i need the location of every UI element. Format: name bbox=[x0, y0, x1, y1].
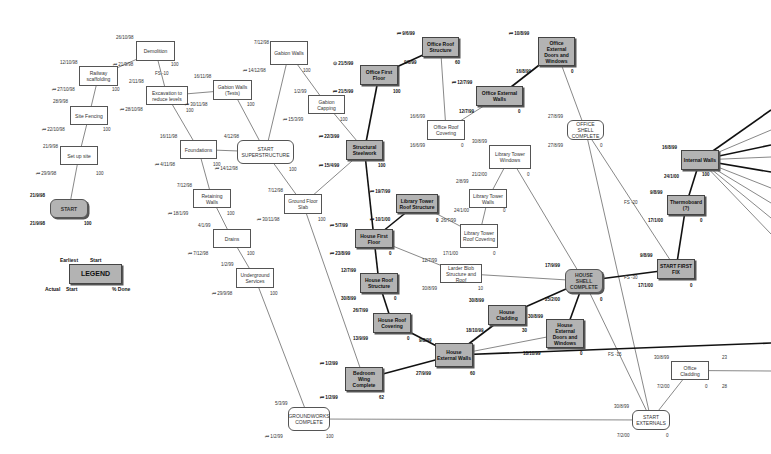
task-node-internal-walls[interactable]: Internal Walls bbox=[681, 150, 719, 170]
task-node-office-roof[interactable]: Office Roof Structure bbox=[422, 37, 459, 57]
task-node-setup[interactable]: Set up site bbox=[60, 146, 98, 165]
legend-actual-label: Actual bbox=[45, 287, 60, 292]
date-label: ⏮ 15/3/99 bbox=[283, 117, 303, 122]
date-label: 5/3/99 bbox=[275, 401, 288, 406]
date-label: 27/8/99 bbox=[548, 143, 563, 148]
task-node-underground[interactable]: Underground Services bbox=[236, 268, 274, 288]
legend-earliest-label: Earliest bbox=[60, 258, 78, 263]
task-node-house-ext-walls[interactable]: House External Walls bbox=[435, 343, 473, 367]
task-node-start-ext[interactable]: START EXTERNALS bbox=[632, 410, 670, 430]
date-label: 0 bbox=[600, 143, 603, 148]
task-node-house-shell[interactable]: HOUSE SHELL COMPLETE bbox=[565, 269, 603, 293]
date-label: 100 bbox=[378, 163, 386, 168]
date-label: 12/7/99 bbox=[459, 109, 474, 114]
task-node-lib-walls[interactable]: Library Tower Walls bbox=[469, 189, 507, 208]
date-label: ⏮ 23/8/99 bbox=[330, 251, 350, 256]
task-node-thermoboard[interactable]: Thermoboard (?) bbox=[667, 195, 705, 215]
task-node-house-ff[interactable]: House First Floor bbox=[355, 229, 393, 248]
date-label: 0 bbox=[503, 208, 506, 213]
date-label: 100 bbox=[96, 171, 104, 176]
task-node-house-roof-struct[interactable]: House Roof Structure bbox=[360, 273, 398, 293]
task-node-struct-steel[interactable]: Structural Steelwork bbox=[346, 140, 383, 160]
date-label: 100 bbox=[103, 127, 111, 132]
date-label: 2/8/99 bbox=[456, 179, 469, 184]
date-label: ⏮ 22/10/98 bbox=[42, 127, 65, 132]
date-label: 21/9/98 bbox=[30, 193, 45, 198]
task-node-groundworks[interactable]: GROUNDWORKS COMPLETE bbox=[288, 407, 330, 431]
dependency-line bbox=[365, 150, 375, 239]
task-node-lib-roof-struct[interactable]: Library Tower Roof Structure bbox=[396, 194, 438, 213]
date-label: 7/12/98 bbox=[177, 183, 192, 188]
date-label: 27/8/99 bbox=[548, 114, 563, 119]
task-node-lib-roof-cov[interactable]: Library Tower Roof Covering bbox=[460, 224, 498, 248]
date-label: 12/10/98 bbox=[60, 60, 78, 65]
date-label: ⏮ 12/7/99 bbox=[452, 80, 472, 85]
legend-box: LEGEND bbox=[69, 264, 122, 284]
date-label: ⏮ 5/7/99 bbox=[330, 223, 348, 228]
task-node-railway[interactable]: Railway scaffolding bbox=[79, 66, 118, 86]
task-node-house-ext-doors[interactable]: House External Doors and Windows bbox=[546, 319, 584, 348]
task-node-office-cladding[interactable]: Office Cladding bbox=[671, 361, 709, 380]
date-label: 26/10/98 bbox=[116, 35, 134, 40]
task-node-demolition[interactable]: Demolition bbox=[136, 41, 175, 61]
task-node-excavation[interactable]: Excavation to reduce levels bbox=[146, 86, 188, 105]
task-node-foundations[interactable]: Foundations bbox=[180, 140, 217, 159]
date-label: ⏮ 10/8/99 bbox=[509, 31, 529, 36]
date-label: 60 bbox=[455, 60, 460, 65]
date-label: 100 bbox=[340, 117, 348, 122]
task-node-bedroom[interactable]: Bedroom Wing Complete bbox=[345, 367, 383, 391]
task-node-office-ext-doors[interactable]: Office External Doors and Windows bbox=[538, 37, 575, 66]
task-node-larder[interactable]: Larder Blob Structure and Roof bbox=[440, 264, 482, 283]
date-label: FS -10 bbox=[155, 71, 169, 76]
date-label: 7/12/98 bbox=[268, 188, 283, 193]
date-label: 0 bbox=[690, 283, 693, 288]
task-node-gabion[interactable]: Gabion Walls bbox=[270, 41, 308, 65]
date-label: 100 bbox=[112, 87, 120, 92]
task-node-office-ff[interactable]: Office First Floor bbox=[360, 65, 398, 85]
date-label: ⏮ 1/2/99 bbox=[320, 361, 338, 366]
date-label: 0 bbox=[666, 433, 669, 438]
date-label: 9/8/99 bbox=[640, 253, 653, 258]
date-label: ⏮ 29/9/98 bbox=[212, 291, 232, 296]
date-label: 4/12/98 bbox=[224, 134, 239, 139]
task-node-gf-slab[interactable]: Ground Floor Slab bbox=[284, 194, 322, 214]
date-label: 100 bbox=[289, 167, 297, 172]
date-label: 28 bbox=[722, 384, 727, 389]
task-node-office-roof-cov[interactable]: Office Roof Covering bbox=[427, 120, 465, 140]
task-node-lib-windows[interactable]: Library Tower Windows bbox=[489, 145, 531, 169]
date-label: 30/8/99 bbox=[472, 139, 487, 144]
date-label: 100 bbox=[247, 251, 255, 256]
date-label: ⏮ 30/11/98 bbox=[257, 217, 279, 222]
task-node-office-ext-walls[interactable]: Office External Walls bbox=[476, 86, 523, 106]
task-node-start[interactable]: START bbox=[50, 199, 88, 218]
legend-actual-start-label: Start bbox=[66, 287, 77, 292]
date-label: 18/10/99 bbox=[466, 328, 484, 333]
date-label: 30/8/99 bbox=[469, 298, 484, 303]
date-label: 0 bbox=[700, 218, 703, 223]
task-node-office-shell[interactable]: OFFICE SHELL COMPLETE bbox=[567, 120, 604, 140]
date-label: 30/8/99 bbox=[614, 404, 629, 409]
task-node-start-super[interactable]: START SUPERSTRUCTURE bbox=[237, 140, 294, 164]
task-node-gabion-tests[interactable]: Gabion Walls (Tests) bbox=[213, 80, 252, 100]
date-label: 9/8/99 bbox=[650, 190, 663, 195]
task-node-drains[interactable]: Drains bbox=[213, 229, 251, 248]
task-node-house-cladding[interactable]: House Cladding bbox=[488, 305, 526, 325]
date-label: ⏮ 1/2/99 bbox=[265, 434, 283, 439]
task-node-start-ff[interactable]: START FIRST FIX bbox=[657, 259, 695, 279]
date-label: 16/6/99 bbox=[410, 114, 425, 119]
task-node-retaining[interactable]: Retaining Walls bbox=[193, 189, 231, 208]
date-label: 100 bbox=[393, 89, 401, 94]
date-label: 100 bbox=[84, 221, 92, 226]
date-label: ⊙ 21/5/99 bbox=[333, 61, 353, 66]
date-label: 7/12/98 bbox=[254, 40, 269, 45]
date-label: 16/11/98 bbox=[160, 134, 177, 139]
task-node-gabion-cap[interactable]: Gabion Capping bbox=[308, 95, 345, 114]
date-label: 0 bbox=[493, 251, 496, 256]
date-label: ⏮ 18/1/99 bbox=[168, 211, 188, 216]
date-label: FS -20 bbox=[624, 200, 638, 205]
date-label: 17/9/99 bbox=[545, 263, 560, 268]
date-label: ⏮ 28/10/98 bbox=[120, 107, 143, 112]
date-label: 0 bbox=[518, 109, 521, 114]
task-node-house-roof-cov[interactable]: House Roof Covering bbox=[373, 313, 411, 333]
task-node-fencing[interactable]: Site Fencing bbox=[70, 106, 108, 125]
